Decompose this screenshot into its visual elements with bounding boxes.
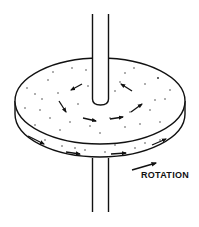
rotation-label: ROTATION	[141, 170, 189, 180]
rotating-disk-diagram: ROTATION	[0, 0, 199, 227]
upper-shaft	[93, 14, 109, 105]
lower-shaft	[93, 158, 109, 212]
rotation-indicator: ROTATION	[132, 163, 189, 180]
rotation-arrow-icon	[132, 163, 156, 170]
